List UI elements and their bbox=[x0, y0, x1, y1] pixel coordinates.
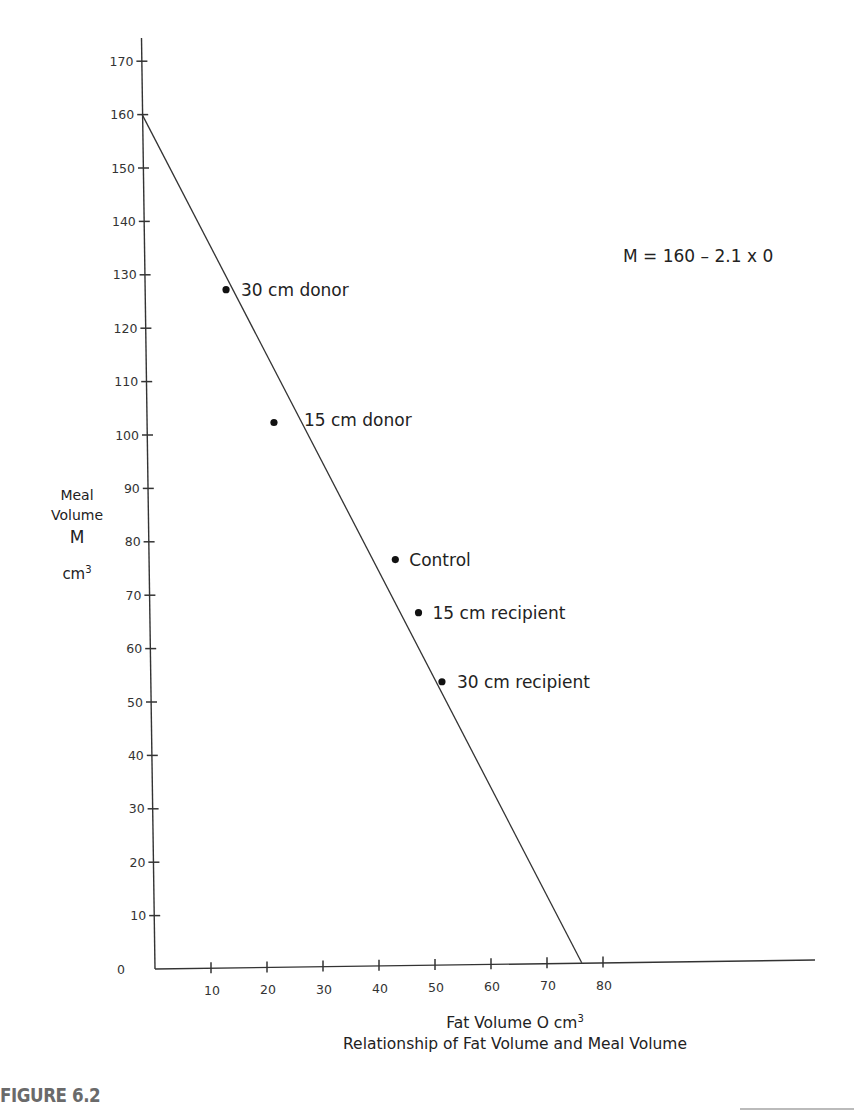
y-axis-label-symbol: M bbox=[42, 525, 112, 549]
y-tick-label: 40 bbox=[128, 748, 144, 763]
y-axis-line bbox=[142, 38, 156, 969]
x-tick-label: 30 bbox=[316, 982, 332, 997]
y-tick-label: 20 bbox=[129, 855, 145, 870]
x-axis-line bbox=[155, 960, 815, 969]
fit-line bbox=[142, 115, 582, 963]
data-point bbox=[392, 556, 399, 563]
axes bbox=[142, 38, 816, 969]
data-point-label: 30 cm recipient bbox=[457, 672, 590, 692]
data-point-label: 15 cm recipient bbox=[433, 603, 566, 623]
data-point-label: 15 cm donor bbox=[304, 410, 412, 430]
y-tick-label: 0 bbox=[117, 962, 125, 977]
x-tick-label: 70 bbox=[540, 978, 556, 993]
x-tick-label: 50 bbox=[428, 980, 444, 995]
data-point bbox=[270, 419, 277, 426]
y-tick-label: 150 bbox=[111, 161, 135, 176]
chart-caption: Relationship of Fat Volume and Meal Volu… bbox=[270, 1035, 760, 1053]
data-point-label: 30 cm donor bbox=[241, 280, 349, 300]
x-tick-label: 20 bbox=[260, 982, 276, 997]
x-axis-label-sup: 3 bbox=[577, 1013, 583, 1024]
data-point bbox=[415, 609, 422, 616]
equation-annotation: M = 160 – 2.1 x 0 bbox=[623, 246, 773, 266]
y-tick-label: 110 bbox=[114, 374, 138, 389]
figure-label: FIGURE 6.2 bbox=[0, 1084, 100, 1106]
y-tick-label: 100 bbox=[115, 428, 139, 443]
y-tick-label: 70 bbox=[125, 588, 141, 603]
x-tick-label: 80 bbox=[596, 978, 612, 993]
data-point bbox=[222, 286, 229, 293]
x-axis-label-text: Fat Volume O cm bbox=[446, 1014, 577, 1032]
regression-line bbox=[142, 115, 582, 963]
y-tick-label: 170 bbox=[110, 54, 134, 69]
x-tick-label: 10 bbox=[204, 983, 220, 998]
y-tick-label: 60 bbox=[126, 641, 142, 656]
y-tick-label: 160 bbox=[110, 107, 134, 122]
data-point bbox=[438, 678, 445, 685]
chart-canvas: 0102030405060708090100110120130140150160… bbox=[0, 0, 854, 1111]
x-axis-label: Fat Volume O cm3 bbox=[300, 1013, 730, 1032]
y-tick-label: 30 bbox=[129, 801, 145, 816]
y-tick-label: 120 bbox=[114, 321, 138, 336]
y-tick-label: 10 bbox=[130, 908, 146, 923]
y-axis-label-unit: cm3 bbox=[42, 559, 112, 585]
ticks: 0102030405060708090100110120130140150160… bbox=[110, 54, 612, 998]
y-tick-label: 140 bbox=[112, 214, 136, 229]
divider bbox=[740, 1108, 854, 1110]
y-axis-label: Meal Volume M cm3 bbox=[42, 485, 112, 585]
data-point-label: Control bbox=[409, 550, 470, 570]
y-tick-label: 50 bbox=[127, 695, 143, 710]
unit-sup: 3 bbox=[85, 564, 91, 575]
y-axis-label-line2: Volume bbox=[42, 505, 112, 525]
y-axis-label-line1: Meal bbox=[42, 485, 112, 505]
unit-text: cm bbox=[62, 565, 85, 583]
x-tick-label: 40 bbox=[372, 981, 388, 996]
data-points: 30 cm donor15 cm donorControl15 cm recip… bbox=[222, 280, 590, 692]
x-tick-label: 60 bbox=[484, 979, 500, 994]
y-tick-label: 90 bbox=[124, 481, 140, 496]
y-tick-label: 80 bbox=[125, 534, 141, 549]
y-tick-label: 130 bbox=[113, 267, 137, 282]
